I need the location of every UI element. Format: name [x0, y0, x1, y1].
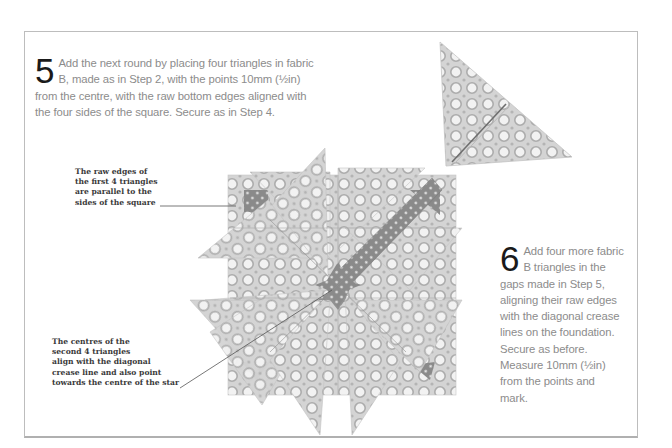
annotation-raw-edges: The raw edges of the first 4 triangles a…: [75, 167, 175, 208]
step-5-number: 5: [35, 57, 54, 85]
folded-triangle-illustration: [440, 42, 572, 166]
step-6-number: 6: [500, 245, 519, 273]
annotation-triangle-centres: The centres of the second 4 triangles al…: [52, 337, 192, 388]
fabric-star-illustration: [190, 148, 462, 435]
step-5-text: Add the next round by placing four trian…: [35, 57, 314, 118]
step-6-instruction: 6 Add four more fabric B triangles in th…: [500, 243, 625, 406]
step-5-instruction: 5 Add the next round by placing four tri…: [35, 55, 315, 120]
